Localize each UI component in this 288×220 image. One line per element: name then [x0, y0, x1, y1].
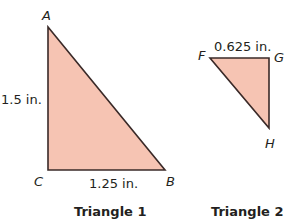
vertex-label-a: A: [41, 8, 51, 23]
triangle-2: F G H 0.625 in. Triangle 2: [198, 39, 284, 219]
vertex-label-g: G: [274, 50, 284, 65]
vertex-label-f: F: [198, 48, 206, 63]
triangle-1: A C B 1.5 in. 1.25 in. Triangle 1: [1, 8, 175, 219]
triangle-1-caption: Triangle 1: [74, 204, 146, 219]
side-ac-length: 1.5 in.: [1, 92, 42, 107]
triangle-1-shape: [48, 27, 165, 170]
side-cb-length: 1.25 in.: [89, 176, 138, 191]
triangle-2-caption: Triangle 2: [211, 204, 283, 219]
vertex-label-h: H: [265, 136, 275, 151]
side-fg-length: 0.625 in.: [214, 39, 271, 54]
vertex-label-b: B: [166, 174, 175, 189]
vertex-label-c: C: [34, 174, 44, 189]
triangle-2-shape: [210, 58, 269, 128]
similar-triangles-diagram: A C B 1.5 in. 1.25 in. Triangle 1 F G H …: [0, 0, 288, 220]
